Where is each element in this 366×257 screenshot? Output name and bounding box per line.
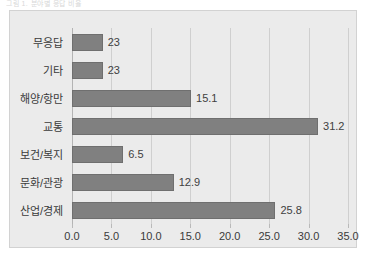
bar xyxy=(72,202,275,219)
chart-title-remnant: 그림 1. 분야별 응답 비율 xyxy=(6,0,126,8)
xaxis-tick-label: 15.0 xyxy=(180,230,201,242)
tick-mark-x-5.0 xyxy=(111,224,112,228)
tick-mark-x-0.0 xyxy=(72,224,73,228)
category-label: 무응답 xyxy=(33,34,63,50)
bar xyxy=(72,62,103,79)
bar-row: 기타23 xyxy=(72,62,348,79)
bar xyxy=(72,146,123,163)
bar-value-label: 12.9 xyxy=(174,176,200,188)
tick-mark-x-15.0 xyxy=(190,224,191,228)
bar-row: 교통31.2 xyxy=(72,118,348,135)
plot-area: 0.05.010.015.020.025.030.035.0산업/경제25.8문… xyxy=(72,28,348,224)
category-label: 교통 xyxy=(43,118,63,134)
bar-row: 해양/항만15.1 xyxy=(72,90,348,107)
category-label: 문화/관광 xyxy=(20,174,63,190)
xaxis-tick-label: 35.0 xyxy=(337,230,358,242)
bar-value-label: 23 xyxy=(103,64,120,76)
bar-row: 문화/관광12.9 xyxy=(72,174,348,191)
bar xyxy=(72,90,191,107)
chart-figure: 그림 1. 분야별 응답 비율 0.05.010.015.020.025.030… xyxy=(0,0,366,257)
bar-row: 산업/경제25.8 xyxy=(72,202,348,219)
xaxis-tick-label: 10.0 xyxy=(140,230,161,242)
bar xyxy=(72,174,174,191)
xaxis-tick-label: 0.0 xyxy=(64,230,79,242)
tick-mark-x-25.0 xyxy=(269,224,270,228)
bar-row: 무응답23 xyxy=(72,34,348,51)
bar-value-label: 6.5 xyxy=(123,148,143,160)
tick-mark-x-20.0 xyxy=(230,224,231,228)
xaxis-tick-label: 20.0 xyxy=(219,230,240,242)
xaxis-tick-label: 5.0 xyxy=(104,230,119,242)
bar xyxy=(72,34,103,51)
category-label: 보건/복지 xyxy=(20,146,63,162)
bar-value-label: 31.2 xyxy=(318,120,344,132)
category-label: 해양/항만 xyxy=(20,90,63,106)
bar-value-label: 25.8 xyxy=(275,204,301,216)
bar-row: 보건/복지6.5 xyxy=(72,146,348,163)
xaxis-tick-label: 25.0 xyxy=(258,230,279,242)
category-label: 산업/경제 xyxy=(20,202,63,218)
category-label: 기타 xyxy=(43,62,63,78)
bar-value-label: 23 xyxy=(103,36,120,48)
gridline-x-35.0 xyxy=(348,28,349,224)
bar xyxy=(72,118,318,135)
tick-mark-x-10.0 xyxy=(151,224,152,228)
tick-mark-x-30.0 xyxy=(309,224,310,228)
xaxis-tick-label: 30.0 xyxy=(298,230,319,242)
bar-value-label: 15.1 xyxy=(191,92,217,104)
tick-mark-x-35.0 xyxy=(348,224,349,228)
plot-frame: 0.05.010.015.020.025.030.035.0산업/경제25.8문… xyxy=(9,10,357,248)
